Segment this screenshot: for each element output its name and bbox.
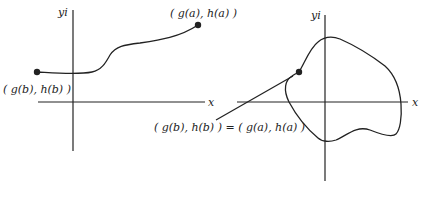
start-point-dot [34, 69, 40, 75]
left-y-axis-label: yi [57, 6, 68, 19]
open-curve [37, 25, 198, 74]
end-point-dot [195, 22, 201, 28]
start-point-label: ( g(b), h(b) ) [3, 83, 71, 96]
closed-curve-point-dot [296, 69, 302, 75]
right-x-axis-label: x [412, 96, 419, 109]
right-y-axis-label: yi [310, 9, 321, 22]
left-x-axis-label: x [208, 96, 215, 109]
pointer-line [216, 76, 293, 120]
diagram-canvas: yi x ( g(a), h(a) ) ( g(b), h(b) ) yi x … [0, 0, 422, 200]
closed-curve-point-label: ( g(b), h(b) ) = ( g(a), h(a) ) [154, 121, 305, 134]
end-point-label: ( g(a), h(a) ) [170, 7, 237, 20]
right-graph: yi x ( g(b), h(b) ) = ( g(a), h(a) ) [154, 9, 419, 181]
